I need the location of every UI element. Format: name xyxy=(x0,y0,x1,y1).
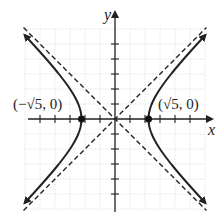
hyperbola-plot: x y (−√5, 0) (√5, 0) xyxy=(0,0,219,214)
left-vertex-label: (−√5, 0) xyxy=(13,96,62,113)
right-vertex-label: (√5, 0) xyxy=(158,96,199,113)
y-axis-label: y xyxy=(102,6,112,24)
x-axis-label: x xyxy=(207,121,215,138)
axes xyxy=(28,12,212,212)
